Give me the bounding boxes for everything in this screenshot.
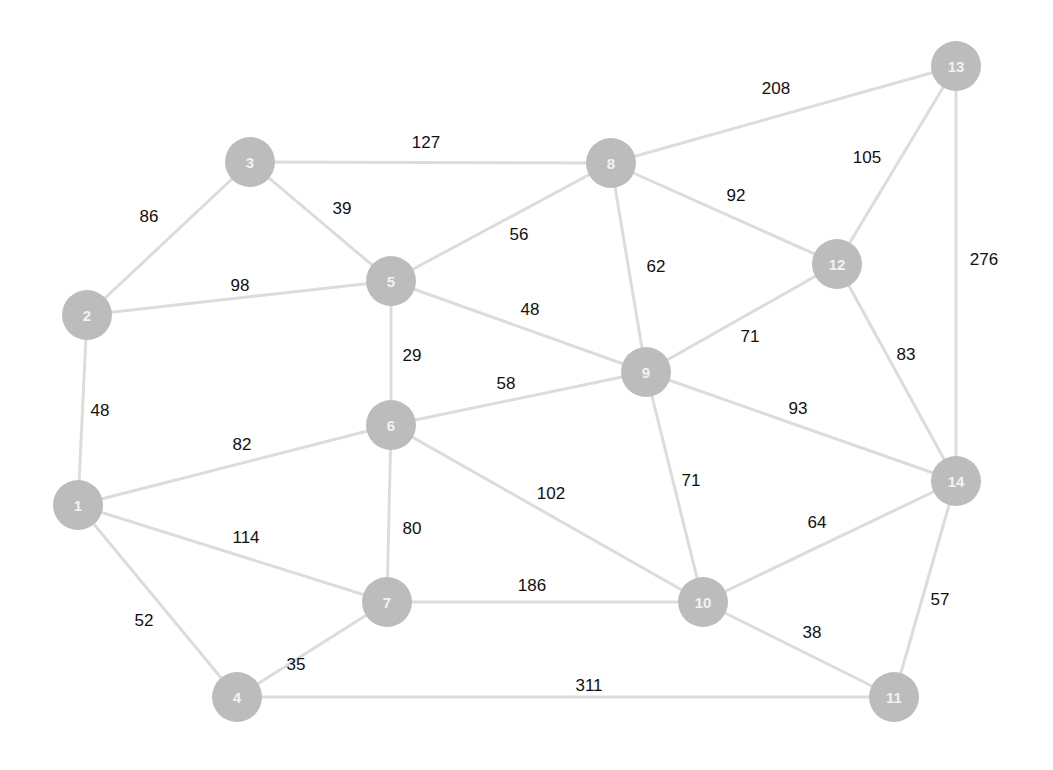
node-label: 4 — [233, 689, 242, 706]
node-label: 11 — [886, 689, 902, 706]
edge-weight-label: 71 — [682, 471, 701, 490]
edge-5-9 — [391, 281, 646, 372]
node-9: 9 — [621, 347, 671, 397]
node-label: 3 — [246, 154, 254, 171]
edge-6-9 — [391, 372, 646, 425]
edge-weight-label: 57 — [931, 590, 950, 609]
edge-2-3 — [87, 162, 250, 315]
edge-weight-label: 29 — [403, 346, 422, 365]
edge-weight-label: 311 — [575, 676, 602, 695]
node-7: 7 — [362, 577, 412, 627]
node-4: 4 — [212, 672, 262, 722]
graph-diagram: 1234567891011121314 48821145286983912756… — [0, 0, 1053, 770]
edge-weight-label: 93 — [789, 399, 808, 418]
edge-3-8 — [250, 162, 611, 163]
edge-12-14 — [837, 264, 956, 481]
edge-weight-label: 186 — [518, 576, 546, 595]
node-3: 3 — [225, 137, 275, 187]
edge-weight-label: 114 — [232, 528, 259, 547]
edge-weight-label: 92 — [727, 186, 746, 205]
node-label: 1 — [74, 497, 82, 514]
node-5: 5 — [366, 256, 416, 306]
node-label: 14 — [948, 473, 965, 490]
edge-weight-label: 102 — [537, 484, 565, 503]
node-1: 1 — [53, 480, 103, 530]
node-label: 10 — [695, 594, 712, 611]
node-6: 6 — [366, 400, 416, 450]
node-label: 6 — [387, 417, 395, 434]
edge-weight-label: 39 — [333, 199, 352, 218]
node-12: 12 — [812, 239, 862, 289]
edge-weight-label: 62 — [647, 257, 666, 276]
edge-1-7 — [78, 505, 387, 602]
edge-9-12 — [646, 264, 837, 372]
edge-weight-label: 276 — [970, 250, 998, 269]
edges-layer — [78, 66, 956, 697]
edge-weight-label: 35 — [287, 655, 306, 674]
edge-weight-label: 80 — [403, 519, 422, 538]
edge-7-4 — [237, 602, 387, 697]
edge-5-8 — [391, 163, 611, 281]
nodes-layer: 1234567891011121314 — [53, 41, 981, 722]
node-8: 8 — [586, 138, 636, 188]
edge-6-10 — [391, 425, 703, 602]
edge-14-10 — [703, 481, 956, 602]
edge-weight-label: 52 — [135, 611, 154, 630]
edge-weight-label: 71 — [741, 327, 760, 346]
edge-weight-label: 208 — [762, 79, 790, 98]
node-label: 12 — [829, 256, 846, 273]
edge-weight-label: 64 — [808, 513, 827, 532]
node-label: 8 — [607, 155, 615, 172]
edge-weight-label: 98 — [231, 276, 250, 295]
node-label: 9 — [642, 364, 650, 381]
edge-10-11 — [703, 602, 894, 697]
edge-8-9 — [611, 163, 646, 372]
node-10: 10 — [678, 577, 728, 627]
edge-weight-label: 86 — [140, 207, 159, 226]
node-14: 14 — [931, 456, 981, 506]
edge-weight-label: 127 — [412, 133, 440, 152]
edge-weight-label: 105 — [853, 148, 881, 167]
node-label: 7 — [383, 594, 391, 611]
edge-3-5 — [250, 162, 391, 281]
node-label: 13 — [948, 58, 965, 75]
edge-8-12 — [611, 163, 837, 264]
edge-weight-label: 56 — [510, 225, 529, 244]
edge-1-2 — [78, 315, 87, 505]
edge-1-4 — [78, 505, 237, 697]
edge-9-14 — [646, 372, 956, 481]
node-2: 2 — [62, 290, 112, 340]
edge-weight-label: 48 — [91, 401, 110, 420]
edge-6-7 — [387, 425, 391, 602]
edge-weight-label: 38 — [803, 623, 822, 642]
edge-weight-label: 48 — [521, 300, 540, 319]
node-label: 5 — [387, 273, 395, 290]
node-13: 13 — [931, 41, 981, 91]
edge-weight-label: 58 — [497, 374, 516, 393]
node-11: 11 — [869, 672, 919, 722]
edge-weight-label: 83 — [897, 345, 916, 364]
node-label: 2 — [83, 307, 91, 324]
edge-weight-label: 82 — [233, 435, 252, 454]
